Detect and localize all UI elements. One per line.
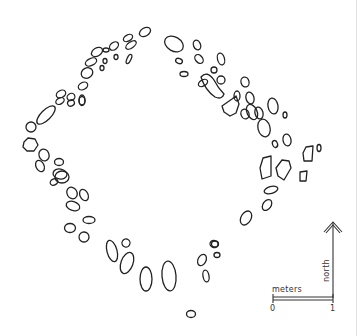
site-plan: [0, 0, 361, 336]
north-label: north: [322, 259, 331, 282]
scale-unit-label: meters: [272, 285, 302, 294]
scale-bar: [273, 294, 333, 303]
stones-northeast: [162, 33, 279, 120]
scale-start-tick: 0: [270, 304, 275, 313]
stones-northwest: [55, 26, 152, 105]
scale-end-tick: 1: [330, 304, 335, 313]
stones-south: [104, 238, 220, 318]
stones-east: [238, 103, 321, 227]
stones-west: [23, 96, 95, 244]
